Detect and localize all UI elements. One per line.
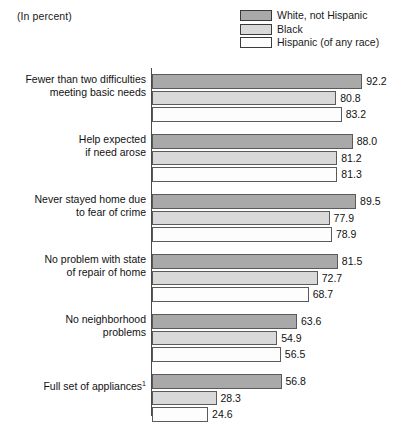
bar-group: Help expectedif need arose88.081.281.3 (0, 120, 417, 180)
bar-group: Full set of appliances156.828.324.6 (0, 360, 417, 420)
legend-item-white-not-hispanic: White, not Hispanic (240, 9, 379, 23)
category-label: No problem with stateof repair of home (5, 253, 151, 279)
legend-label-black: Black (277, 23, 303, 37)
bar-value-label: 63.6 (297, 314, 321, 329)
plot-area: Fewer than two difficultiesmeeting basic… (0, 60, 417, 422)
bar-value-label: 77.9 (330, 211, 354, 226)
legend-item-hispanic: Hispanic (of any race) (240, 36, 379, 50)
category-label: Fewer than two difficultiesmeeting basic… (5, 73, 151, 99)
bar-value-label: 92.2 (362, 74, 386, 89)
bar-value-label: 72.7 (318, 271, 342, 286)
category-label-line: No neighborhood (5, 313, 146, 326)
bar-group: No neighborhoodproblems63.654.956.5 (0, 300, 417, 360)
category-label-line: if need arose (5, 146, 146, 159)
bar-group: Fewer than two difficultiesmeeting basic… (0, 60, 417, 120)
bar-0 (152, 74, 362, 89)
bar-0 (152, 374, 282, 389)
category-label-line: Fewer than two difficulties (5, 73, 146, 86)
category-label: Never stayed home dueto fear of crime (5, 193, 151, 219)
chart-legend: White, not Hispanic Black Hispanic (of a… (240, 9, 379, 50)
bar-value-label: 80.8 (336, 91, 360, 106)
category-label: Help expectedif need arose (5, 133, 151, 159)
legend-swatch-hispanic (240, 37, 272, 48)
category-label-line: problems (5, 326, 146, 339)
bar-value-label: 88.0 (353, 134, 377, 149)
bar-1 (152, 271, 318, 286)
bar-1 (152, 391, 217, 406)
legend-swatch-white-not-hispanic (240, 10, 272, 21)
bar-value-label: 81.5 (338, 254, 362, 269)
category-label-line: Full set of appliances1 (5, 380, 146, 393)
bar-groups: Fewer than two difficultiesmeeting basic… (0, 60, 417, 420)
bar-chart: (In percent) White, not Hispanic Black H… (0, 0, 417, 422)
category-label-line: Never stayed home due (5, 193, 146, 206)
bar-0 (152, 194, 356, 209)
bar-0 (152, 254, 338, 269)
legend-item-black: Black (240, 23, 379, 37)
bar-1 (152, 331, 277, 346)
bar-group: No problem with stateof repair of home81… (0, 240, 417, 300)
bar-value-label: 24.6 (208, 407, 232, 422)
units-note: (In percent) (17, 10, 72, 22)
category-label: Full set of appliances1 (5, 380, 151, 393)
bar-1 (152, 151, 337, 166)
bar-2 (152, 407, 208, 422)
category-label-line: of repair of home (5, 266, 146, 279)
legend-label-white-not-hispanic: White, not Hispanic (277, 9, 367, 23)
bar-0 (152, 134, 353, 149)
bar-1 (152, 211, 330, 226)
category-label-line: No problem with state (5, 253, 146, 266)
bar-group: Never stayed home dueto fear of crime89.… (0, 180, 417, 240)
bar-value-label: 56.8 (282, 374, 306, 389)
bar-value-label: 28.3 (217, 391, 241, 406)
category-label-line: Help expected (5, 133, 146, 146)
category-label-line: to fear of crime (5, 206, 146, 219)
legend-label-hispanic: Hispanic (of any race) (277, 36, 379, 50)
bar-1 (152, 91, 336, 106)
bar-value-label: 81.2 (337, 151, 361, 166)
bar-value-label: 54.9 (277, 331, 301, 346)
bar-value-label: 89.5 (356, 194, 380, 209)
bar-0 (152, 314, 297, 329)
footnote-marker: 1 (142, 380, 146, 387)
category-label-line: meeting basic needs (5, 86, 146, 99)
category-label: No neighborhoodproblems (5, 313, 151, 339)
legend-swatch-black (240, 24, 272, 35)
